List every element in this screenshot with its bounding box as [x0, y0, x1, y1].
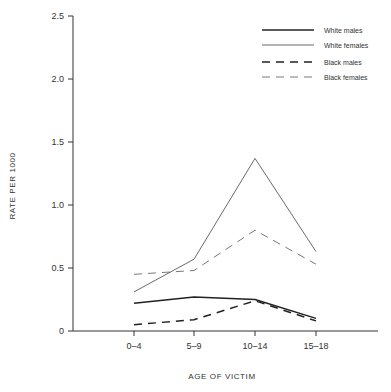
x-tick-label: 10–14: [242, 341, 267, 351]
x-axis: 0–45–910–1415–18: [73, 331, 378, 351]
x-tick-label: 5–9: [186, 341, 201, 351]
y-tick-label: 1.5: [51, 137, 64, 147]
line-chart: 00.51.01.52.02.5 0–45–910–1415–18 White …: [0, 0, 391, 392]
legend-label: White males: [324, 27, 363, 34]
legend: White malesWhite femalesBlack malesBlack…: [262, 27, 369, 81]
x-tick-label: 15–18: [303, 341, 328, 351]
y-tick-label: 2.0: [51, 74, 64, 84]
x-tick-label: 0–4: [126, 341, 141, 351]
legend-label: Black males: [324, 59, 362, 66]
series-black-males: [134, 301, 316, 325]
series-black-females: [134, 230, 316, 274]
legend-label: Black females: [324, 74, 368, 81]
y-tick-label: 0: [59, 326, 64, 336]
y-tick-label: 0.5: [51, 263, 64, 273]
y-axis-title: RATE PER 1000: [8, 152, 17, 219]
y-axis: 00.51.01.52.02.5: [51, 11, 73, 336]
series-lines: [134, 158, 316, 324]
legend-label: White females: [324, 42, 369, 49]
y-tick-label: 1.0: [51, 200, 64, 210]
x-axis-title: AGE OF VICTIM: [188, 372, 255, 381]
series-white-females: [134, 158, 316, 292]
y-tick-label: 2.5: [51, 11, 64, 21]
series-white-males: [134, 297, 316, 318]
